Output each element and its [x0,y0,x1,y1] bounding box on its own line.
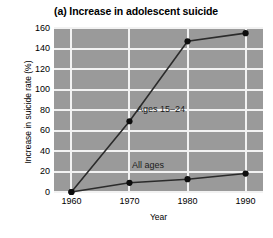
y-tick-label: 160 [24,24,50,33]
y-tick-label: 140 [24,44,50,53]
x-axis-tick-labels: 1960197019801990 [54,196,263,210]
plot-area: Ages 15–24 All ages [54,28,263,192]
y-tick-label: 80 [24,106,50,115]
y-tick-label: 20 [24,167,50,176]
data-point-marker [126,180,132,186]
y-tick-label: 100 [24,85,50,94]
series-label-all-ages: All ages [132,160,164,170]
y-tick-label: 40 [24,147,50,156]
data-point-marker [126,118,132,124]
y-tick-label: 0 [24,188,50,197]
y-axis-tick-labels: 020406080100120140160 [22,28,50,192]
chart-title: (a) Increase in adolescent suicide [54,5,264,17]
data-point-marker [184,176,190,182]
series-line [71,174,245,192]
x-tick-label: 1990 [226,196,266,206]
x-tick-label: 1970 [109,196,149,206]
data-point-marker [242,170,248,176]
chart-figure: (a) Increase in adolescent suicide Incre… [0,0,273,238]
y-tick-label: 60 [24,126,50,135]
x-tick-label: 1960 [51,196,91,206]
x-axis-title: Year [54,212,263,222]
series-label-ages-15-24: Ages 15–24 [137,104,185,114]
x-tick-label: 1980 [168,196,208,206]
series-all-ages [68,170,248,195]
data-point-marker [184,38,190,44]
data-point-marker [68,189,74,195]
y-tick-label: 120 [24,65,50,74]
data-point-marker [242,30,248,36]
